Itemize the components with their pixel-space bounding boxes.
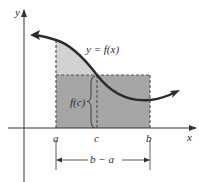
point-a-label: a	[53, 133, 59, 144]
fc-label: f(c)	[70, 97, 85, 108]
point-b-label: b	[146, 133, 152, 144]
y-axis-label: y	[15, 7, 20, 18]
width-label: b − a	[90, 154, 114, 165]
curve-label: y = f(x)	[86, 44, 119, 55]
x-axis-label: x	[187, 132, 192, 143]
point-c-label: c	[94, 133, 99, 144]
mean-value-integral-diagram: y x y = f(x) f(c) a c b b − a	[0, 0, 199, 182]
